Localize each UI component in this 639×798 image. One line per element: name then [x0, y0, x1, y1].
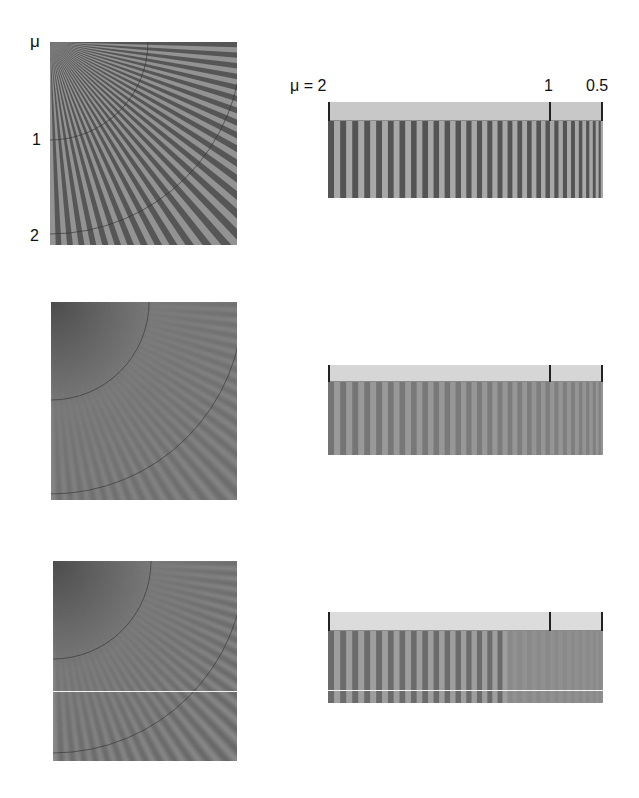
bar-label-mu-1: 1 [544, 78, 553, 94]
tick-mu-2 [328, 612, 330, 631]
tick-mu-1 [549, 102, 551, 121]
mu-2-label: 2 [30, 228, 39, 244]
stripes [328, 121, 603, 198]
radial-panel-reconstruction-b [53, 561, 237, 761]
mu-1-label: 1 [32, 132, 41, 148]
bar-scale-header [328, 102, 603, 121]
tick-mu-0-5 [601, 612, 603, 631]
tick-mu-1 [549, 365, 551, 382]
scan-artifact-line [328, 690, 603, 691]
radial-panel-reconstruction-a [51, 302, 237, 500]
stripe-bar-reconstruction-b [328, 612, 603, 703]
bar-scale-header [328, 365, 603, 382]
stripes [328, 631, 603, 703]
stripe-bar-original [328, 102, 603, 198]
bar-label-mu-0-5: 0.5 [586, 78, 608, 94]
stripes [328, 382, 603, 455]
tick-mu-0-5 [601, 365, 603, 382]
bar-label-mu-2: μ = 2 [290, 78, 326, 94]
tick-mu-1 [549, 612, 551, 631]
stripe-bar-reconstruction-a [328, 365, 603, 455]
tick-mu-0-5 [601, 102, 603, 121]
radial-panel-original [50, 42, 237, 245]
mu-axis-label: μ [30, 34, 40, 50]
tick-mu-2 [328, 102, 330, 121]
bar-scale-header [328, 612, 603, 631]
tick-mu-2 [328, 365, 330, 382]
